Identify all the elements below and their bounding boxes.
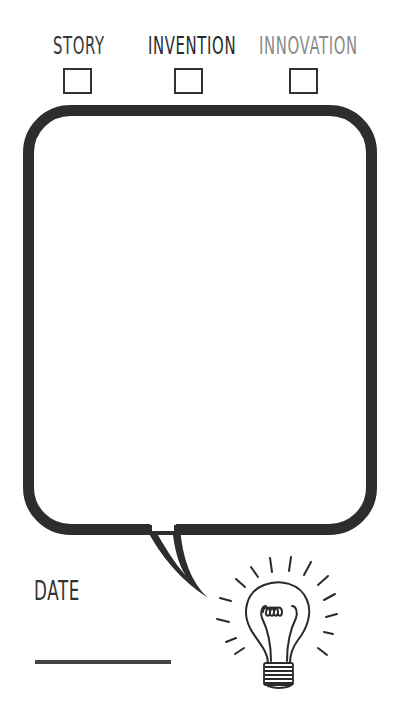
lightbulb-icon [0,0,402,702]
worksheet-page: STORY INVENTION INNOVATION DATE [0,0,402,702]
